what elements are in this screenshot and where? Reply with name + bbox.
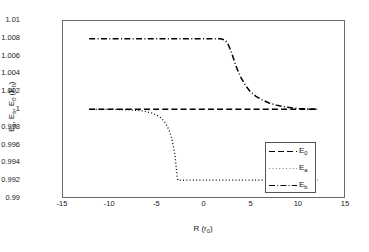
x-tick-label: 0: [184, 200, 224, 208]
legend-entry-eb: Eb: [266, 177, 317, 194]
figure-canvas: 1.01 1.008 1.006 1.004 1.002 1 0.998 0.9…: [0, 0, 369, 252]
x-tick-label: 10: [278, 200, 318, 208]
x-tick-label: 15: [325, 200, 365, 208]
legend-sample-dashed: [269, 151, 297, 152]
y-tick-label: 0.992: [0, 176, 20, 184]
legend-label-e0: E0: [299, 145, 308, 159]
y-tick-label: 1.01: [0, 16, 20, 24]
legend-sample-dotted: [269, 168, 297, 169]
series-line-eb: [89, 39, 318, 110]
x-axis-label: R (r0): [143, 224, 263, 234]
legend-label-ea: Ea: [299, 162, 308, 176]
legend-label-eb: Eb: [299, 179, 308, 193]
y-tick-label: 0.99: [0, 194, 20, 202]
legend-box: E0 Ea Eb: [265, 142, 316, 193]
y-axis-label: Ea, Eb, E0 (E0): [7, 37, 17, 177]
x-tick-label: 5: [231, 200, 271, 208]
legend-entry-ea: Ea: [266, 160, 317, 177]
x-tick-label: -5: [136, 200, 176, 208]
legend-sample-dashdot: [269, 185, 297, 186]
legend-entry-e0: E0: [266, 143, 317, 160]
x-tick-label: -10: [89, 200, 129, 208]
x-tick-label: -15: [42, 200, 82, 208]
